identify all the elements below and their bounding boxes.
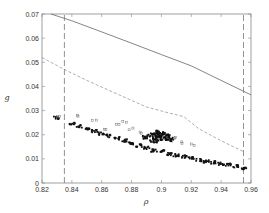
series-solid-line [51, 14, 251, 95]
x-tick-label: 0.84 [65, 186, 79, 193]
x-tick-label: 0.92 [184, 186, 198, 193]
y-axis-ticks: 00.010.020.030.040.050.060.07 [25, 11, 251, 187]
x-tick-label: 0.88 [125, 186, 139, 193]
x-tick-label: 0.94 [214, 186, 228, 193]
y-tick-label: 0 [35, 180, 39, 187]
plot-border [42, 14, 251, 183]
x-axis-ticks: 0.820.840.860.880.90.920.940.96 [35, 14, 258, 193]
series-scatter-cluster [142, 130, 174, 144]
x-tick-label: 0.86 [95, 186, 109, 193]
x-axis-label: ρ [143, 197, 149, 206]
x-tick-label: 0.96 [244, 186, 258, 193]
y-tick-label: 0.04 [25, 83, 39, 90]
series-scatter-dark [53, 116, 247, 171]
y-tick-label: 0.03 [25, 107, 39, 114]
y-tick-label: 0.05 [25, 59, 39, 66]
y-tick-label: 0.07 [25, 11, 39, 18]
y-tick-label: 0.01 [25, 155, 39, 162]
series-layer [42, 14, 251, 183]
chart: 0.820.840.860.880.90.920.940.96 00.010.0… [0, 0, 269, 213]
x-tick-label: 0.9 [157, 186, 167, 193]
plot-frame [42, 14, 251, 183]
y-tick-label: 0.02 [25, 131, 39, 138]
x-tick-label: 0.82 [35, 186, 49, 193]
y-axis-label: g [4, 93, 9, 102]
y-tick-label: 0.06 [25, 35, 39, 42]
